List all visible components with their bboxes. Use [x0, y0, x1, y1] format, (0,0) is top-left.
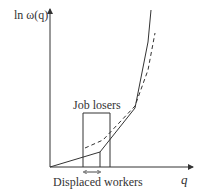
dashed-wage-curve — [85, 33, 155, 148]
job-losers-label: Job losers — [73, 98, 121, 112]
displaced-workers-label: Displaced workers — [53, 175, 143, 189]
solid-wage-curve — [50, 10, 151, 167]
x-axis-label: q — [181, 172, 188, 187]
diagram-canvas: ln ω(q) q Job losers Displaced workers — [0, 0, 205, 194]
y-axis-label: ln ω(q) — [14, 8, 48, 22]
job-losers-box — [83, 113, 110, 167]
